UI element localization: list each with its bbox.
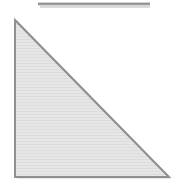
horizontal-rule-shadow bbox=[40, 6, 150, 7]
horizontal-rule bbox=[38, 3, 150, 6]
figure-canvas: Right triangle figure bbox=[0, 0, 184, 185]
shape-illustration bbox=[0, 0, 184, 185]
